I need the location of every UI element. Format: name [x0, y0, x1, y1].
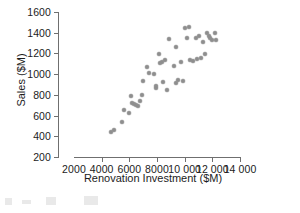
y-tick-mark [54, 157, 59, 158]
x-tick-mark [102, 157, 103, 162]
x-tick-mark [212, 157, 213, 162]
data-point [152, 72, 156, 76]
x-tick-label: 4000 [90, 163, 114, 175]
data-point [138, 99, 142, 103]
x-tick-label: 6000 [117, 163, 141, 175]
data-point [187, 25, 191, 29]
y-tick-mark [54, 53, 59, 54]
data-point [163, 58, 167, 62]
data-point [161, 80, 165, 84]
data-point [203, 52, 207, 56]
data-point [140, 93, 144, 97]
data-point [174, 45, 178, 49]
data-point [176, 78, 180, 82]
x-tick-mark [157, 157, 158, 162]
data-point [181, 79, 185, 83]
data-point [122, 108, 126, 112]
data-point [201, 40, 205, 44]
data-point [214, 38, 218, 42]
data-point [112, 128, 116, 132]
data-point [147, 71, 151, 75]
data-point [127, 111, 131, 115]
scan-artifact [84, 196, 98, 205]
scan-artifact [22, 200, 31, 204]
data-point [199, 56, 203, 60]
y-axis-title: Sales ($M) [15, 53, 27, 106]
data-point [165, 88, 169, 92]
x-tick-label: 8000 [145, 163, 169, 175]
y-tick-mark [54, 12, 59, 13]
data-point [154, 86, 158, 90]
y-tick-label: 1400 [27, 27, 51, 39]
y-tick-label: 1200 [27, 47, 51, 59]
data-point [129, 94, 133, 98]
data-point [120, 120, 124, 124]
data-point [172, 64, 176, 68]
data-point [141, 79, 145, 83]
scan-artifact [5, 198, 12, 205]
y-tick-label: 200 [33, 151, 51, 163]
data-point [197, 34, 201, 38]
y-tick-mark [54, 74, 59, 75]
y-tick-label: 1600 [27, 6, 51, 18]
data-point [185, 36, 189, 40]
y-tick-label: 600 [33, 110, 51, 122]
data-point [145, 65, 149, 69]
data-point [179, 60, 183, 64]
x-tick-mark [240, 157, 241, 162]
data-point [157, 52, 161, 56]
data-point [167, 37, 171, 41]
y-tick-label: 1000 [27, 68, 51, 80]
scan-artifact [46, 197, 56, 205]
x-tick-label: 2000 [62, 163, 86, 175]
y-tick-mark [54, 33, 59, 34]
y-tick-mark [54, 136, 59, 137]
data-point [136, 104, 140, 108]
x-tick-mark [185, 157, 186, 162]
y-axis-title-container: Sales ($M) [0, 0, 28, 160]
y-tick-label: 800 [33, 89, 51, 101]
scatter-chart-figure: Sales ($M) Renovation Investment ($M) 20… [0, 0, 300, 213]
plot-area: 2004006008001000120014001600 20004000600… [58, 12, 240, 158]
y-tick-mark [54, 116, 59, 117]
y-tick-label: 400 [33, 130, 51, 142]
x-tick-label: 14 000 [224, 163, 257, 175]
data-point [213, 31, 217, 35]
x-tick-mark [129, 157, 130, 162]
y-tick-mark [54, 95, 59, 96]
